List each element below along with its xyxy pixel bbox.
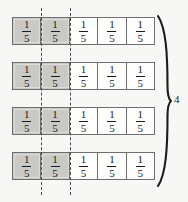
fraction-cell: 1 5 [69, 152, 97, 180]
fraction-cell: 1 5 [40, 62, 68, 90]
fraction-denominator: 5 [80, 33, 88, 44]
fraction-numerator: 1 [51, 64, 59, 75]
fraction-one-fifth: 1 5 [136, 19, 145, 44]
fraction-denominator: 5 [51, 168, 59, 179]
fraction-numerator: 1 [137, 154, 145, 165]
fraction-numerator: 1 [137, 109, 145, 120]
fraction-cell: 1 5 [12, 107, 40, 135]
fraction-one-fifth: 1 5 [22, 64, 31, 89]
fraction-one-fifth: 1 5 [107, 19, 116, 44]
fraction-one-fifth: 1 5 [51, 19, 60, 44]
fraction-numerator: 1 [137, 64, 145, 75]
fraction-denominator: 5 [23, 78, 31, 89]
fraction-numerator: 1 [23, 64, 31, 75]
fraction-denominator: 5 [80, 123, 88, 134]
fraction-numerator: 1 [80, 64, 88, 75]
fraction-numerator: 1 [51, 109, 59, 120]
fraction-cell: 1 5 [126, 152, 155, 180]
fraction-one-fifth: 1 5 [107, 154, 116, 179]
fraction-cell: 1 5 [97, 107, 125, 135]
fraction-cell: 1 5 [126, 62, 155, 90]
fraction-denominator: 5 [137, 78, 145, 89]
fraction-one-fifth: 1 5 [51, 64, 60, 89]
fraction-numerator: 1 [51, 154, 59, 165]
fraction-denominator: 5 [137, 123, 145, 134]
fraction-denominator: 5 [137, 168, 145, 179]
fraction-one-fifth: 1 5 [22, 19, 31, 44]
fraction-cell: 1 5 [12, 17, 40, 45]
fraction-one-fifth: 1 5 [22, 109, 31, 134]
fraction-cell: 1 5 [69, 107, 97, 135]
fraction-denominator: 5 [108, 78, 116, 89]
fraction-denominator: 5 [80, 168, 88, 179]
fraction-bar-row: 1 5 1 5 1 5 1 5 [12, 107, 155, 135]
fraction-cell: 1 5 [12, 152, 40, 180]
fraction-bar-row: 1 5 1 5 1 5 1 5 [12, 62, 155, 90]
fraction-one-fifth: 1 5 [107, 109, 116, 134]
fraction-one-fifth: 1 5 [22, 154, 31, 179]
fraction-one-fifth: 1 5 [107, 64, 116, 89]
fraction-cell: 1 5 [126, 17, 155, 45]
fraction-cell: 1 5 [69, 17, 97, 45]
dashed-guide-line-right [70, 8, 71, 195]
fraction-one-fifth: 1 5 [79, 154, 88, 179]
fraction-one-fifth: 1 5 [79, 19, 88, 44]
fraction-numerator: 1 [23, 19, 31, 30]
fraction-denominator: 5 [23, 168, 31, 179]
fraction-one-fifth: 1 5 [136, 109, 145, 134]
fraction-cell: 1 5 [40, 17, 68, 45]
fraction-numerator: 1 [137, 19, 145, 30]
fraction-cell: 1 5 [126, 107, 155, 135]
fraction-one-fifth: 1 5 [51, 109, 60, 134]
fraction-numerator: 1 [23, 154, 31, 165]
fraction-numerator: 1 [108, 64, 116, 75]
fraction-numerator: 1 [108, 109, 116, 120]
fraction-bar-diagram: 1 5 1 5 1 5 1 5 [0, 0, 188, 202]
fraction-cell: 1 5 [97, 17, 125, 45]
dashed-guide-line-left [41, 8, 42, 195]
fraction-cell: 1 5 [40, 107, 68, 135]
fraction-numerator: 1 [80, 154, 88, 165]
fraction-one-fifth: 1 5 [136, 64, 145, 89]
fraction-cell: 1 5 [12, 62, 40, 90]
fraction-denominator: 5 [23, 123, 31, 134]
fraction-one-fifth: 1 5 [136, 154, 145, 179]
fraction-bar-row: 1 5 1 5 1 5 1 5 [12, 17, 155, 45]
fraction-bar-row: 1 5 1 5 1 5 1 5 [12, 152, 155, 180]
group-brace [155, 14, 173, 188]
fraction-one-fifth: 1 5 [79, 64, 88, 89]
fraction-cell: 1 5 [69, 62, 97, 90]
fraction-numerator: 1 [108, 19, 116, 30]
fraction-one-fifth: 1 5 [51, 154, 60, 179]
fraction-denominator: 5 [137, 33, 145, 44]
fraction-cell: 1 5 [40, 152, 68, 180]
fraction-denominator: 5 [108, 33, 116, 44]
fraction-denominator: 5 [80, 78, 88, 89]
fraction-denominator: 5 [108, 123, 116, 134]
fraction-denominator: 5 [51, 123, 59, 134]
fraction-denominator: 5 [51, 78, 59, 89]
fraction-numerator: 1 [80, 19, 88, 30]
fraction-cell: 1 5 [97, 152, 125, 180]
fraction-numerator: 1 [23, 109, 31, 120]
fraction-denominator: 5 [51, 33, 59, 44]
fraction-denominator: 5 [23, 33, 31, 44]
fraction-one-fifth: 1 5 [79, 109, 88, 134]
fraction-numerator: 1 [80, 109, 88, 120]
fraction-numerator: 1 [108, 154, 116, 165]
fraction-denominator: 5 [108, 168, 116, 179]
fraction-cell: 1 5 [97, 62, 125, 90]
fraction-numerator: 1 [51, 19, 59, 30]
brace-count-label: 4 [174, 93, 180, 105]
